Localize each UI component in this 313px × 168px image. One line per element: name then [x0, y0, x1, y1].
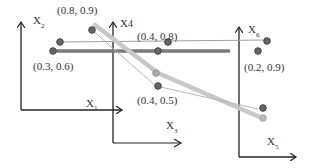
dot-0.2-0.9	[255, 48, 262, 55]
label-x1-sub: 1	[94, 104, 98, 112]
label-p2: (0.4, 0.8)	[137, 30, 178, 43]
label-x3-sub: 3	[174, 127, 178, 135]
label-x4-sub: 4	[128, 18, 133, 29]
label-x6: X	[248, 23, 256, 35]
dot-upper-left	[57, 39, 64, 46]
label-x5-sub: 5	[275, 143, 279, 151]
dot-lower-right	[260, 105, 267, 112]
dot-light-mid	[153, 70, 160, 77]
label-p3: (0.3, 0.6)	[33, 60, 74, 73]
label-p5: (0.4, 0.5)	[137, 94, 178, 107]
label-p1: (0.8, 0.9)	[57, 4, 98, 17]
dot-0.4-0.5	[155, 83, 162, 90]
label-p4: (0.2, 0.9)	[244, 61, 285, 74]
point-labels: (0.8, 0.9) (0.4, 0.8) (0.3, 0.6) (0.2, 0…	[33, 4, 285, 107]
label-x5: X	[267, 135, 275, 147]
dot-light-right	[260, 115, 267, 122]
parallel-coordinates-diagram: (0.8, 0.9) (0.4, 0.8) (0.3, 0.6) (0.2, 0…	[0, 0, 313, 168]
label-x6-sub: 6	[256, 31, 260, 39]
label-x1: X	[86, 97, 94, 109]
dot-x6-top	[264, 38, 271, 45]
dot-0.3-0.6	[50, 48, 57, 55]
label-x3: X	[166, 119, 174, 131]
label-x2-sub: 2	[41, 22, 45, 30]
label-x2: X	[33, 14, 41, 26]
dot-mid-thick	[155, 48, 162, 55]
label-x4: X	[120, 17, 128, 29]
dot-0.8-0.9	[89, 27, 96, 34]
